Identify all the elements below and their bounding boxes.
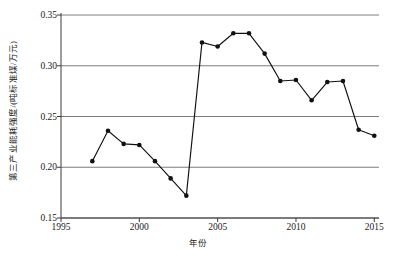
x-axis-title: 年份 [0,236,396,248]
x-tick-2010: 2010 [276,222,316,233]
x-tick-2005: 2005 [198,222,238,233]
line-chart: 第三产业能耗强度/(吨标准煤/万元) 0.150.200.250.300.35 … [0,0,396,262]
x-tick-2015: 2015 [354,222,394,233]
x-tick-2000: 2000 [119,222,159,233]
x-axis-tick-labels: 19952000200520102015 [0,0,396,262]
x-tick-1995: 1995 [41,222,81,233]
